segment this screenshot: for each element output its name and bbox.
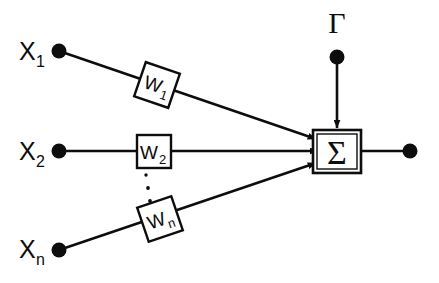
output-branch [361, 144, 418, 159]
input-branch-x1: X 1 W 1 [19, 37, 316, 139]
weight-box-group-w2: W 2 [137, 135, 171, 168]
summation-unit: Σ [313, 130, 361, 173]
bias-branch-gamma: Γ [328, 6, 345, 128]
summation-label: Σ [327, 134, 347, 171]
neuron-diagram: X 1 W 1 X 2 W 2 [0, 0, 439, 283]
input-label-x1: X [19, 37, 36, 65]
input-label-xn-subscript: n [36, 251, 45, 268]
input-branch-x2: X 2 W 2 [19, 135, 318, 170]
vertical-ellipsis [144, 173, 152, 203]
ellipsis-dot-1 [144, 173, 147, 176]
weight-box-group-wn: W n [137, 196, 183, 242]
input-branch-xn: X n W n [19, 163, 316, 268]
weight-box-group-w1: W 1 [134, 62, 180, 108]
edge-xn-to-sum [59, 163, 316, 250]
weight-label-w2-subscript: 2 [159, 152, 166, 167]
neuron-diagram-canvas: X 1 W 1 X 2 W 2 [0, 0, 439, 283]
output-node[interactable] [403, 144, 418, 159]
ellipsis-dot-2 [146, 186, 150, 190]
edge-x1-to-sum [59, 51, 316, 139]
input-label-x1-subscript: 1 [36, 53, 45, 70]
bias-label-gamma: Γ [328, 6, 345, 39]
weight-label-w2: W [140, 142, 158, 163]
input-label-xn: X [19, 235, 36, 263]
input-label-x2-subscript: 2 [36, 153, 45, 170]
input-label-x2: X [19, 137, 36, 165]
